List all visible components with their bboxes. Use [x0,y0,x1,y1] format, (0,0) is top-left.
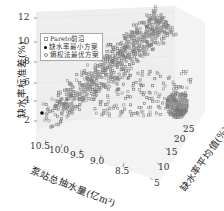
legend: Pareto前沿 缺水率最小方案 熵权法最优方案 [40,33,103,61]
y-axis-title: 缺水率标准差(%) [14,42,28,118]
square-marker-icon [44,37,48,41]
open-circle-icon [44,53,48,57]
x-tick-9.5: 9.5 [70,151,84,160]
legend-item-min-shortage: 缺水率最小方案 [44,43,99,51]
y-tick-25: 25 [183,125,194,134]
z-tick-12: 12 [18,13,29,22]
y-tick-10: 10 [158,163,169,172]
y-tick-20: 20 [174,135,185,144]
filled-circle-icon [44,46,47,49]
x-tick-9.0: 9.0 [90,157,104,166]
x-tick-10.5: 10.5 [30,142,50,151]
x-tick-8.5: 8.5 [115,167,129,176]
min-shortage-point [40,111,44,115]
x-tick-10.0: 10.0 [49,146,69,155]
y-tick-5: 5 [154,179,160,188]
legend-item-pareto: Pareto前沿 [44,35,99,43]
y-tick-15: 15 [166,148,177,157]
legend-item-entropy: 熵权法最优方案 [44,51,99,59]
